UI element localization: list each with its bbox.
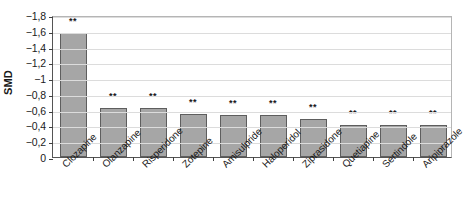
y-axis-tick-label: −0,4 xyxy=(26,121,46,131)
gridline xyxy=(53,96,451,97)
y-axis-tick-label: −1,4 xyxy=(26,43,46,53)
significance-marker: ** xyxy=(380,109,407,118)
y-axis-tick-mark xyxy=(49,112,53,113)
gridline xyxy=(53,112,451,113)
gridline xyxy=(53,49,451,50)
significance-marker: ** xyxy=(220,99,247,108)
y-axis-tick-label: −0,8 xyxy=(26,90,46,100)
significance-marker: ** xyxy=(180,98,207,107)
y-axis-tick-label: 0 xyxy=(40,153,46,163)
y-axis-tick-mark xyxy=(49,17,53,18)
y-axis-tick-label: −0,2 xyxy=(26,137,46,147)
significance-marker: ** xyxy=(340,109,367,118)
significance-marker: ** xyxy=(260,99,287,108)
bar-group[interactable]: ** xyxy=(220,15,247,157)
y-axis-tick-mark xyxy=(49,143,53,144)
bar-group[interactable]: ** xyxy=(420,15,447,157)
bar-group[interactable]: ** xyxy=(60,15,87,157)
gridline xyxy=(53,80,451,81)
bar-group[interactable]: ** xyxy=(380,15,407,157)
significance-marker: ** xyxy=(60,17,87,26)
gridline xyxy=(53,64,451,65)
bar-group[interactable]: ** xyxy=(260,15,287,157)
y-axis-tick-label: −0,6 xyxy=(26,106,46,116)
y-axis-tick-label: −1,2 xyxy=(26,58,46,68)
y-axis-tick-mark xyxy=(49,127,53,128)
y-axis-tick-label: −1,6 xyxy=(26,27,46,37)
y-axis-tick-label: −1 xyxy=(34,74,46,84)
gridline xyxy=(53,33,451,34)
y-axis-tick-labels: 0−0,2−0,4−0,6−0,8−1−1,2−1,4−1,6−1,8 xyxy=(18,16,50,158)
y-axis-tick-mark xyxy=(49,96,53,97)
y-axis-tick-mark xyxy=(49,64,53,65)
gridline xyxy=(53,17,451,18)
y-axis-tick-label: −1,8 xyxy=(26,11,46,21)
bar-group[interactable]: ** xyxy=(180,15,207,157)
significance-marker: ** xyxy=(420,109,447,118)
y-axis-tick-mark xyxy=(49,33,53,34)
x-axis-tick-labels: ClozapineOlanzapineRisperidoneZotepineAm… xyxy=(52,158,452,214)
bar-group[interactable]: ** xyxy=(100,15,127,157)
y-axis-tick-mark xyxy=(49,49,53,50)
y-axis-tick-mark xyxy=(49,80,53,81)
bar-group[interactable]: ** xyxy=(340,15,367,157)
bar-group[interactable]: ** xyxy=(300,15,327,157)
bar-group[interactable]: ** xyxy=(140,15,167,157)
